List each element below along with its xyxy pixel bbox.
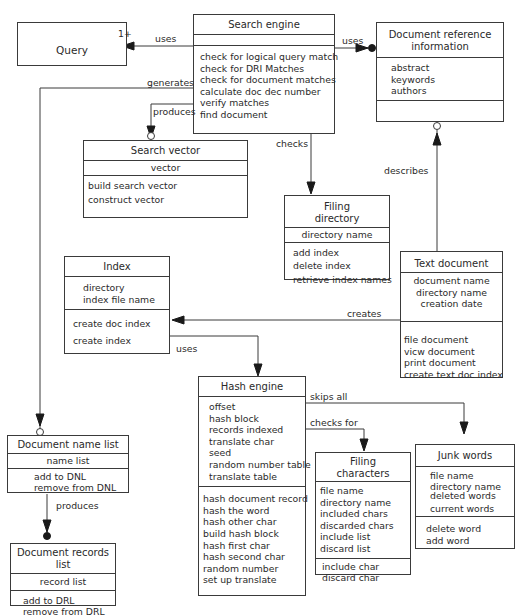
class-search-vector: Search vector vector build search vector… <box>83 140 248 218</box>
attribute: directory name <box>289 229 385 241</box>
class-document-reference-information: Document reference information abstract … <box>376 22 504 122</box>
attribute: include list <box>320 531 406 543</box>
class-text-document: Text document document name directory na… <box>400 251 503 378</box>
attribute: file name <box>320 485 406 497</box>
operations-section: create doc index create index <box>65 310 169 354</box>
class-document-records-list: Document records list record list add to… <box>10 543 116 606</box>
operation: include char <box>322 561 404 573</box>
class-name: Filing directory <box>285 196 389 228</box>
operation: hash the word <box>203 505 301 517</box>
association-label-uses: uses <box>176 343 197 354</box>
class-name: Document reference information <box>377 23 503 58</box>
operation: build hash block <box>203 528 301 540</box>
attribute: name list <box>12 455 124 467</box>
operations-section: include char discard char <box>316 559 410 586</box>
operations-section: file document vicw document print docume… <box>401 322 502 382</box>
attribute: records indexed <box>209 424 295 436</box>
attribute: discarded chars <box>320 520 406 532</box>
operation: calculate doc dec number <box>200 86 328 98</box>
attribute: translate char <box>209 436 295 448</box>
attribute: file name <box>430 471 500 481</box>
operation: add to DNL <box>34 471 102 483</box>
operation: delete word <box>426 523 504 535</box>
attribute: seed <box>209 447 295 459</box>
operation: add to DRL <box>23 595 103 607</box>
operation: create index <box>73 335 161 347</box>
operations-section: hash document record hash the word hash … <box>199 487 305 588</box>
association-label-produces: produces <box>56 500 99 511</box>
operation: vicw document <box>404 346 499 358</box>
operation: remove from DRL <box>23 606 103 616</box>
operation: check for DRI Matches <box>200 63 328 75</box>
operation: remove from DNL <box>34 482 102 494</box>
association-label-describes: describes <box>384 165 428 176</box>
operations-section: build search vector construct vector <box>84 176 247 210</box>
attribute: hash block <box>209 413 295 425</box>
class-name: Index <box>65 257 169 277</box>
attribute: included chars <box>320 508 406 520</box>
attribute: offset <box>209 401 295 413</box>
association-label-skips-all: skips all <box>310 391 347 402</box>
operation: delete index <box>293 260 381 272</box>
class-document-name-list: Document name list name list add to DNL … <box>7 435 129 493</box>
class-filing-directory: Filing directory directory name add inde… <box>284 195 390 280</box>
operations-section: add to DRL remove from DRL <box>11 591 115 616</box>
operations-section <box>377 101 503 107</box>
attribute: document name <box>403 275 500 287</box>
operation: add index <box>293 247 381 259</box>
uml-class-diagram: Query Search engine check for logical qu… <box>0 0 526 616</box>
operation: build search vector <box>88 180 243 192</box>
attribute: vector <box>90 162 241 174</box>
attribute: abstract <box>391 62 489 74</box>
operation: check for document matches <box>200 74 328 86</box>
attributes-section: document name directory name creation da… <box>401 273 502 322</box>
attribute: deleted words <box>430 491 500 501</box>
operation: hash other char <box>203 516 301 528</box>
class-name: Document name list <box>8 436 128 454</box>
attributes-section: offset hash block records indexed transl… <box>199 397 305 487</box>
class-name: Text document <box>401 252 502 273</box>
attributes-section: file name directory name deleted words c… <box>416 467 514 517</box>
attributes-section: name list <box>8 454 128 469</box>
operation: hash document record <box>203 493 301 505</box>
operation: verify matches <box>200 97 328 109</box>
attributes-section: directory index file name <box>65 277 169 310</box>
association-label-uses: uses <box>155 33 176 44</box>
operations-section: delete word add word <box>416 517 514 552</box>
attributes-section: record list <box>11 574 115 591</box>
attribute: directory <box>83 282 151 294</box>
association-label-creates: creates <box>347 308 381 319</box>
association-label-checks: checks <box>276 138 308 149</box>
class-name: Search vector <box>84 141 247 161</box>
attributes-section: file name directory name included chars … <box>316 482 410 559</box>
attribute: authors <box>391 85 489 97</box>
operation: create text doc index <box>404 369 499 381</box>
operation: create doc index <box>73 318 161 330</box>
operation: random number <box>203 563 301 575</box>
attribute: random number table <box>209 459 295 471</box>
attribute: keywords <box>391 74 489 86</box>
class-search-engine: Search engine check for logical query ma… <box>193 14 335 134</box>
attribute: discard list <box>320 543 406 555</box>
operations-section: add index delete index retrieve index na… <box>285 243 389 290</box>
class-name: Filing characters <box>316 453 410 482</box>
operations-section: add to DNL remove from DNL <box>8 469 128 496</box>
attributes-section <box>194 35 334 46</box>
association-label-produces: produces <box>153 106 196 117</box>
attribute: record list <box>15 576 111 588</box>
class-name: Query <box>18 44 126 56</box>
class-index: Index directory index file name create d… <box>64 256 170 354</box>
attribute: directory name <box>403 287 500 299</box>
attributes-section: vector <box>84 161 247 176</box>
operation: find document <box>200 109 328 121</box>
association-label-checks-for: checks for <box>310 417 358 428</box>
operation: hash first char <box>203 540 301 552</box>
attribute: translate table <box>209 471 295 483</box>
attribute: directory name <box>320 497 406 509</box>
class-name: Junk words <box>416 445 514 467</box>
class-query: Query <box>17 22 127 66</box>
class-name: Document records list <box>11 544 115 574</box>
class-junk-words: Junk words file name directory name dele… <box>415 444 515 549</box>
attribute: index file name <box>83 294 151 306</box>
operations-section: check for logical query match check for … <box>194 46 334 124</box>
